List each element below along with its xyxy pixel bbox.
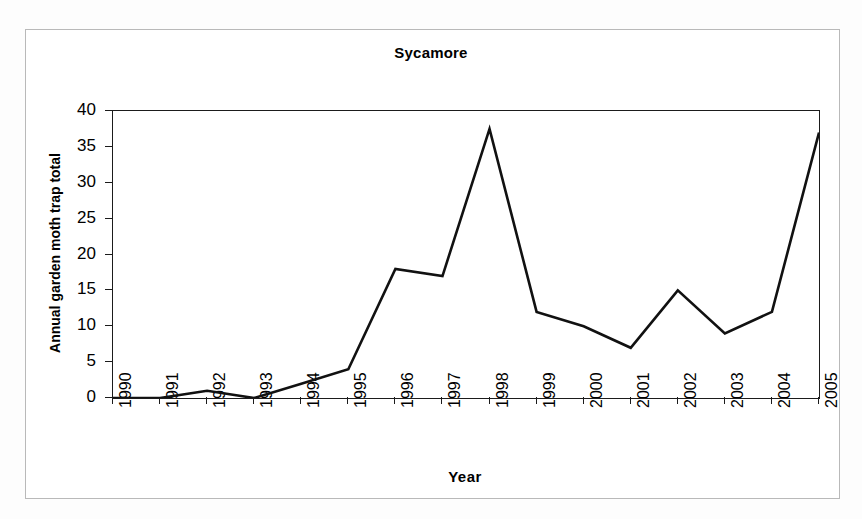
x-axis-title: Year xyxy=(112,468,818,485)
y-tick-label: 40 xyxy=(50,101,96,118)
y-tick-mark xyxy=(105,289,112,290)
figure-canvas: Sycamore Annual garden moth trap total Y… xyxy=(0,0,862,519)
y-tick-mark xyxy=(105,182,112,183)
y-tick-label: 15 xyxy=(50,280,96,297)
y-tick-label: 20 xyxy=(50,245,96,262)
y-tick-mark xyxy=(105,397,112,398)
series-line-sycamore xyxy=(113,129,819,398)
y-tick-mark xyxy=(105,254,112,255)
y-tick-label: 0 xyxy=(50,388,96,405)
y-tick-mark xyxy=(105,146,112,147)
chart-title: Sycamore xyxy=(0,44,862,61)
y-tick-mark xyxy=(105,361,112,362)
y-tick-label: 10 xyxy=(50,316,96,333)
y-tick-mark xyxy=(105,218,112,219)
x-tick-label: 2005 xyxy=(824,372,840,408)
y-tick-mark xyxy=(105,110,112,111)
y-tick-label: 35 xyxy=(50,137,96,154)
y-tick-label: 5 xyxy=(50,352,96,369)
y-tick-label: 30 xyxy=(50,173,96,190)
y-tick-label: 25 xyxy=(50,209,96,226)
plot-area xyxy=(112,110,820,399)
line-series-svg xyxy=(113,111,819,398)
y-tick-mark xyxy=(105,325,112,326)
